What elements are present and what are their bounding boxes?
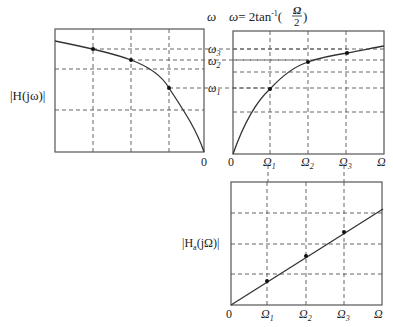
- left-plot: |H(jω)| 0: [10, 29, 347, 169]
- formula-denominator: 2: [294, 16, 300, 28]
- left-plot-frame: [55, 29, 204, 152]
- bottom-xaxis-label: Ω: [374, 307, 383, 321]
- bottom-plot-grid: [231, 182, 382, 305]
- left-plot-grid: [55, 29, 347, 152]
- formula-numerator: Ω: [293, 4, 302, 16]
- mapping-formula: ω= 2tan-1( Ω 2 ): [229, 4, 307, 28]
- bilinear-transform-diagram: |H(jω)| 0 ω ω3 ω2 ω1 ω= 2tan-1( Ω 2 ): [0, 0, 393, 327]
- right-origin-label: 0: [228, 155, 234, 169]
- right-xtick-omega1: Ω1: [263, 155, 276, 171]
- bottom-xtick-omega1: Ω1: [261, 307, 274, 323]
- right-xtick-omega3: Ω3: [339, 155, 352, 171]
- bottom-origin-label: 0: [226, 307, 232, 321]
- left-ylabel: |H(jω)|: [10, 88, 45, 103]
- bottom-ylabel: |Ha(jΩ)|: [182, 236, 219, 252]
- bottom-xtick-omega3: Ω3: [337, 307, 350, 323]
- bottom-xtick-omega2: Ω2: [299, 307, 312, 323]
- right-xtick-omega2: Ω2: [301, 155, 314, 171]
- omega-1-label: ω1: [208, 81, 220, 97]
- bottom-markers: [265, 230, 346, 283]
- left-origin-label: 0: [201, 155, 207, 169]
- left-response-curve: [55, 41, 204, 152]
- bottom-plot: |Ha(jΩ)| 0 Ω1 Ω2 Ω3 Ω: [182, 182, 383, 323]
- svg-text:): ): [303, 9, 307, 24]
- right-plot: 0 Ω1 Ω2 Ω3 Ω: [228, 31, 386, 182]
- bottom-plot-frame: [231, 182, 382, 305]
- right-markers: [268, 51, 349, 91]
- right-xaxis-label: Ω: [377, 155, 386, 169]
- svg-text:ω= 2tan-1(: ω= 2tan-1(: [229, 9, 282, 24]
- omega-axis-label: ω: [207, 9, 216, 24]
- omega-labels: ω ω3 ω2 ω1: [207, 9, 220, 97]
